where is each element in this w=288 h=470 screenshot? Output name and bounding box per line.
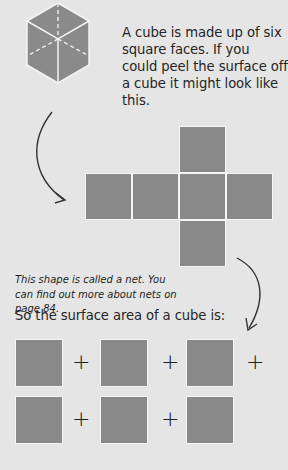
sum-face	[15, 396, 63, 444]
net-face	[179, 220, 226, 267]
net-face	[132, 173, 179, 220]
net-face	[85, 173, 132, 220]
plus-sign: +	[161, 408, 177, 430]
sum-face	[100, 339, 148, 387]
plus-sign: +	[72, 351, 88, 373]
plus-sign: +	[72, 408, 88, 430]
cube-icon	[27, 3, 89, 83]
intro-text: A cube is made up of six square faces. I…	[122, 24, 288, 109]
curved-arrow-icon	[237, 258, 260, 330]
net-face	[226, 173, 273, 220]
net-face	[179, 173, 226, 220]
net-face	[179, 126, 226, 173]
curved-arrow-icon	[37, 112, 65, 203]
sum-face	[186, 339, 234, 387]
sum-face	[186, 396, 234, 444]
sum-face	[100, 396, 148, 444]
plus-sign: +	[161, 351, 177, 373]
sum-face	[15, 339, 63, 387]
surface-area-heading: So the surface area of a cube is:	[15, 308, 225, 323]
plus-sign: +	[246, 351, 262, 373]
